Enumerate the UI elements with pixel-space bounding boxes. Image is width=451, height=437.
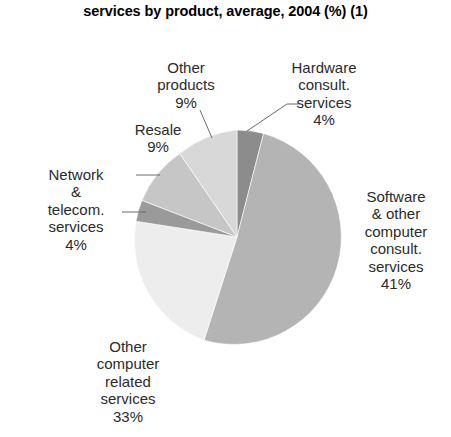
pie-label-hardware-consult-services: Hardware consult. services 4% [268,41,380,146]
pie-label-software-other-computer-consult-services: Software & other computer consult. servi… [344,170,448,310]
pie-label-software-other-computer-consult-services-text: Software & other computer consult. servi… [344,188,448,293]
pie-label-network-telecom-services-text: Network & telecom. services 4% [16,166,136,254]
pie-label-hardware-consult-services-text: Hardware consult. services 4% [268,59,380,129]
pie-chart-figure: services by product, average, 2004 (%) (… [0,0,451,437]
pie-label-network-telecom-services: Network & telecom. services 4% [16,148,136,271]
pie-label-other-computer-related-services: Other computer related services 33% [66,320,190,437]
pie-label-other-computer-related-services-text: Other computer related services 33% [66,338,190,426]
